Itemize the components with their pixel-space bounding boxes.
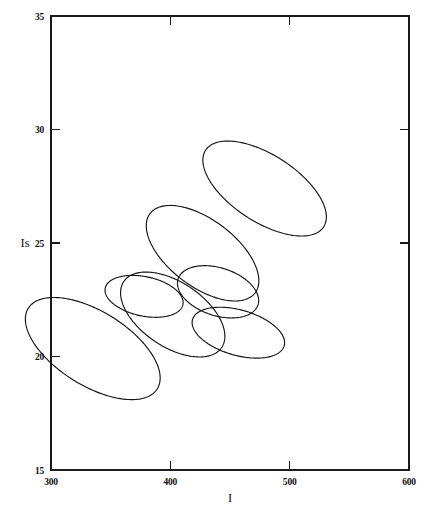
x-tick-label: 400	[164, 477, 178, 487]
plot-background	[0, 0, 427, 522]
x-tick-label: 600	[402, 477, 416, 487]
y-tick-label: 15	[35, 466, 45, 476]
chart-container: 300400500600 1520253035 I Is	[0, 0, 427, 522]
y-tick-label: 25	[35, 239, 45, 249]
y-tick-label: 35	[35, 12, 45, 22]
x-tick-label: 300	[44, 477, 58, 487]
x-axis-title: I	[228, 491, 232, 505]
y-axis-title: Is	[20, 236, 29, 250]
y-tick-label: 30	[35, 125, 45, 135]
y-tick-label: 20	[35, 352, 45, 362]
x-tick-label: 500	[283, 477, 297, 487]
ellipse-scatter-plot: 300400500600 1520253035 I Is	[0, 0, 427, 522]
